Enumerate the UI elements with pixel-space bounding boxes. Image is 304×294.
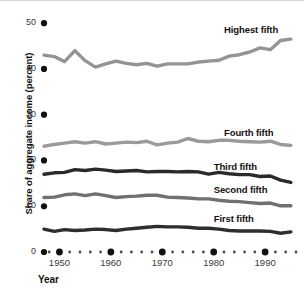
plot-area	[0, 0, 304, 294]
x-minor-tick-dot	[295, 251, 298, 254]
y-tick-dot	[41, 203, 47, 209]
x-major-tick-dot	[262, 249, 269, 256]
x-major-tick-dot	[107, 249, 114, 256]
series-line	[44, 226, 291, 233]
x-minor-tick-dot	[151, 251, 154, 254]
x-axis-title: Year	[38, 274, 59, 285]
y-axis-title: Share of aggregate income (percent)	[23, 44, 34, 224]
x-tick-label: 1960	[96, 257, 126, 268]
y-tick-dot	[41, 20, 47, 26]
series-label: Highest fifth	[224, 24, 278, 35]
x-minor-tick-dot	[130, 251, 133, 254]
x-minor-tick-dot	[233, 251, 236, 254]
y-tick-dot	[41, 112, 47, 118]
series-line	[44, 39, 291, 67]
y-tick-label: 0	[14, 246, 36, 256]
series-label: First fifth	[214, 213, 254, 224]
x-minor-tick-dot	[79, 251, 82, 254]
series-label: Second fifth	[214, 184, 268, 195]
x-minor-tick-dot	[48, 251, 51, 254]
x-minor-tick-dot	[192, 251, 195, 254]
x-minor-tick-dot	[171, 251, 174, 254]
y-tick-dot	[41, 157, 47, 163]
x-tick-label: 1990	[250, 257, 280, 268]
x-tick-label: 1950	[44, 257, 74, 268]
x-major-tick-dot	[56, 249, 63, 256]
series-line	[44, 194, 291, 206]
x-minor-tick-dot	[89, 251, 92, 254]
x-minor-tick-dot	[223, 251, 226, 254]
series-label: Fourth fifth	[224, 127, 273, 138]
income-share-line-chart: 50403020100 19501960197019801990 Highest…	[0, 0, 304, 294]
x-minor-tick-dot	[140, 251, 143, 254]
x-minor-tick-dot	[253, 251, 256, 254]
x-minor-tick-dot	[243, 251, 246, 254]
x-major-tick-dot	[210, 249, 217, 256]
x-tick-label: 1980	[199, 257, 229, 268]
x-axis-tick-dots	[48, 249, 298, 256]
x-minor-tick-dot	[68, 251, 71, 254]
x-minor-tick-dot	[120, 251, 123, 254]
x-minor-tick-dot	[202, 251, 205, 254]
y-tick-dot	[41, 66, 47, 72]
x-minor-tick-dot	[181, 251, 184, 254]
y-tick-dot	[41, 249, 47, 255]
series-label: Third fifth	[214, 161, 257, 172]
x-major-tick-dot	[159, 249, 166, 256]
x-minor-tick-dot	[99, 251, 102, 254]
series-line	[44, 138, 291, 146]
x-minor-tick-dot	[274, 251, 277, 254]
y-tick-label: 50	[14, 17, 36, 27]
x-minor-tick-dot	[284, 251, 287, 254]
x-tick-label: 1970	[147, 257, 177, 268]
